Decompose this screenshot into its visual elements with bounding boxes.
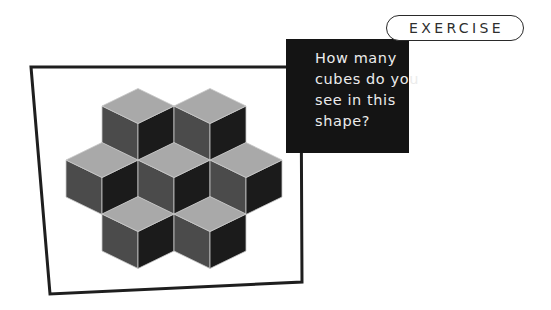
question-line-4: shape? (315, 111, 409, 132)
picture-frame (0, 0, 551, 310)
exercise-panel: How many cubes do you see in this shape?… (0, 0, 551, 310)
question-line-3: see in this (315, 90, 409, 111)
question-box: How many cubes do you see in this shape? (286, 39, 409, 153)
question-line-1: How many (315, 48, 409, 69)
exercise-badge: EXERCISE (386, 15, 524, 41)
exercise-badge-label: EXERCISE (406, 20, 504, 36)
question-line-2: cubes do you (315, 69, 409, 90)
